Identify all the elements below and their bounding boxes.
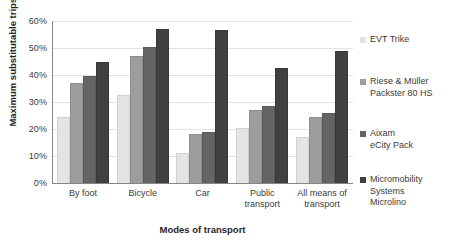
y-tick-label-10: 10%: [29, 151, 47, 161]
bar: [70, 83, 83, 183]
bar: [322, 113, 335, 183]
bar: [249, 110, 262, 183]
x-tick-label: By foot: [53, 188, 113, 199]
legend-item[interactable]: Riese & Müller Packster 80 HS: [360, 76, 433, 99]
bar: [176, 153, 189, 183]
bar: [262, 106, 275, 183]
x-tick-label: Public transport: [232, 188, 292, 210]
chart-screenshot: Maximum substitutable trips [%] 60%50%40…: [0, 0, 454, 244]
x-tick-label: All means of transport: [292, 188, 352, 210]
bar: [296, 137, 309, 183]
bar: [156, 29, 169, 183]
bar: [57, 117, 70, 183]
bar-group: [113, 21, 173, 183]
bar: [130, 56, 143, 183]
bar: [189, 134, 202, 183]
legend-swatch-icon: [360, 177, 366, 183]
bar: [275, 68, 288, 183]
y-tick-label-50: 50%: [29, 43, 47, 53]
y-tick-label-40: 40%: [29, 70, 47, 80]
bar: [236, 128, 249, 183]
bar-group: [173, 21, 233, 183]
legend-swatch-icon: [360, 37, 366, 43]
bar: [96, 62, 109, 184]
legend-label: Riese & Müller Packster 80 HS: [370, 76, 433, 99]
x-tick-label: Car: [173, 188, 233, 199]
y-tick-label-30: 30%: [29, 97, 47, 107]
legend-label: Micromobility Systems Microlino: [370, 174, 423, 209]
x-tick-label: Bicycle: [113, 188, 173, 199]
y-tick-label-20: 20%: [29, 124, 47, 134]
bar-group: [292, 21, 352, 183]
bar: [202, 132, 215, 183]
bar: [215, 30, 228, 183]
bar: [117, 95, 130, 183]
y-tick-label-0: 0%: [34, 178, 47, 188]
legend-label: Aixam eCity Pack: [370, 128, 413, 151]
x-axis-title: Modes of transport: [53, 224, 352, 235]
bar-group: [53, 21, 113, 183]
bar-group: [232, 21, 292, 183]
legend-label: EVT Trike: [370, 34, 409, 46]
bar-groups: [53, 21, 352, 183]
bar: [83, 76, 96, 183]
legend-swatch-icon: [360, 131, 366, 137]
y-tick-label-60: 60%: [29, 16, 47, 26]
legend-item[interactable]: Aixam eCity Pack: [360, 128, 413, 151]
legend-item[interactable]: EVT Trike: [360, 34, 409, 46]
legend-item[interactable]: Micromobility Systems Microlino: [360, 174, 423, 209]
y-axis-tick-labels: 60%50%40%30%20%10%0%: [0, 0, 52, 184]
bar: [309, 117, 322, 183]
bar: [335, 51, 348, 183]
bar: [143, 47, 156, 183]
x-axis-tick-labels: By footBicycleCarPublic transportAll mea…: [53, 188, 352, 222]
legend-swatch-icon: [360, 79, 366, 85]
